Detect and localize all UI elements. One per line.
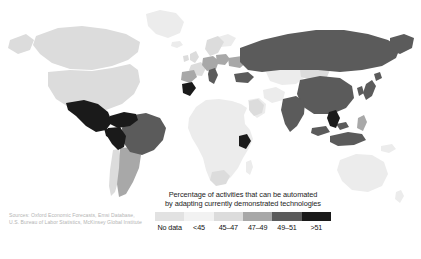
legend-label-no-data: No data xyxy=(155,223,184,232)
legend-swatch-47-49 xyxy=(243,212,272,221)
legend-title: Percentage of activities that can be aut… xyxy=(155,190,331,209)
map-legend: Percentage of activities that can be aut… xyxy=(155,190,331,232)
sources-note: Sources: Oxford Economic Forecasts, Emsi… xyxy=(9,212,154,227)
legend-swatch-under-45 xyxy=(184,212,213,221)
legend-swatch-over-51 xyxy=(302,212,331,221)
legend-swatch-45-47 xyxy=(214,212,243,221)
world-automation-map-figure: Percentage of activities that can be aut… xyxy=(0,0,421,259)
legend-label-over-51: >51 xyxy=(302,223,331,232)
legend-labels: No data <45 45–47 47–49 49–51 >51 xyxy=(155,223,331,232)
legend-label-47-49: 47–49 xyxy=(243,223,272,232)
legend-swatch-no-data xyxy=(155,212,184,221)
legend-label-45-47: 45–47 xyxy=(214,223,243,232)
legend-swatch-49-51 xyxy=(272,212,301,221)
legend-label-under-45: <45 xyxy=(184,223,213,232)
legend-label-49-51: 49–51 xyxy=(272,223,301,232)
legend-color-ramp xyxy=(155,212,331,221)
